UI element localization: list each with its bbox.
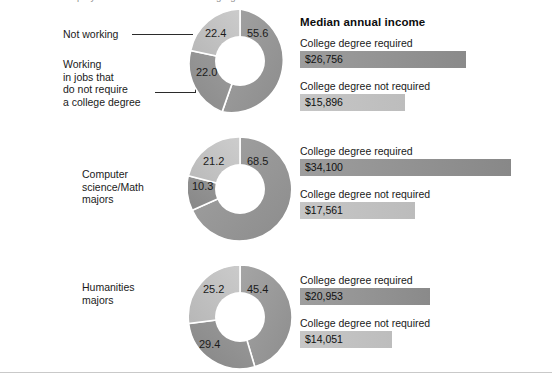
bar-value-label: $20,953 — [305, 290, 343, 302]
donut-center-hole — [215, 292, 265, 342]
slice-value-55-6: 55.6 — [247, 27, 268, 39]
chart-row-cs-math: Computer science/Math majors — [0, 128, 552, 256]
figure-canvas: employment status of recent college grad… — [0, 0, 552, 386]
slice-value-29-4: 29.4 — [199, 338, 220, 350]
donut-chart-humanities — [188, 265, 292, 369]
category-label-humanities: Humanities majors — [82, 281, 135, 306]
bar-caption-degree-required: College degree required — [300, 145, 413, 157]
donut-center-hole — [215, 164, 265, 214]
slice-value-22-4: 22.4 — [205, 27, 226, 39]
slice-value-25-2: 25.2 — [203, 283, 224, 295]
bar-value-label: $26,756 — [305, 53, 343, 65]
bar-caption-degree-not-required: College degree not required — [300, 80, 430, 92]
slice-value-22-0: 22.0 — [196, 66, 217, 78]
bar-degree-required: $20,953 — [300, 288, 430, 305]
bar-caption-degree-not-required: College degree not required — [300, 188, 430, 200]
callout-label-working-no-degree: Working in jobs that do not require a co… — [63, 58, 141, 108]
bar-panel-title: Median annual income — [300, 16, 425, 28]
slice-value-21-2: 21.2 — [203, 155, 224, 167]
bar-degree-required: $34,100 — [300, 159, 511, 176]
chart-row-humanities: Humanities majors — [0, 256, 552, 372]
bar-value-label: $34,100 — [305, 161, 343, 173]
bar-value-label: $15,896 — [305, 96, 343, 108]
category-label-cs-math: Computer science/Math majors — [82, 168, 144, 206]
slice-value-10-3: 10.3 — [192, 180, 213, 192]
bar-degree-not-required: $15,896 — [300, 94, 405, 111]
bar-caption-degree-required: College degree required — [300, 37, 413, 49]
leader-line-not-working — [132, 34, 193, 35]
slice-value-68-5: 68.5 — [247, 155, 268, 167]
bar-degree-not-required: $17,561 — [300, 202, 415, 219]
bar-value-label: $17,561 — [305, 204, 343, 216]
donut-center-hole — [215, 36, 265, 86]
chart-row-all-graduates: Not working Working in jobs that do not … — [0, 0, 552, 128]
bar-caption-degree-not-required: College degree not required — [300, 317, 430, 329]
footer-divider — [0, 372, 552, 373]
bar-degree-not-required: $14,051 — [300, 331, 392, 348]
bar-caption-degree-required: College degree required — [300, 274, 413, 286]
callout-label-not-working: Not working — [63, 28, 118, 41]
donut-chart-all-graduates — [188, 9, 292, 113]
slice-value-45-4: 45.4 — [247, 283, 268, 295]
bar-value-label: $14,051 — [305, 333, 343, 345]
bar-degree-required: $26,756 — [300, 51, 466, 68]
